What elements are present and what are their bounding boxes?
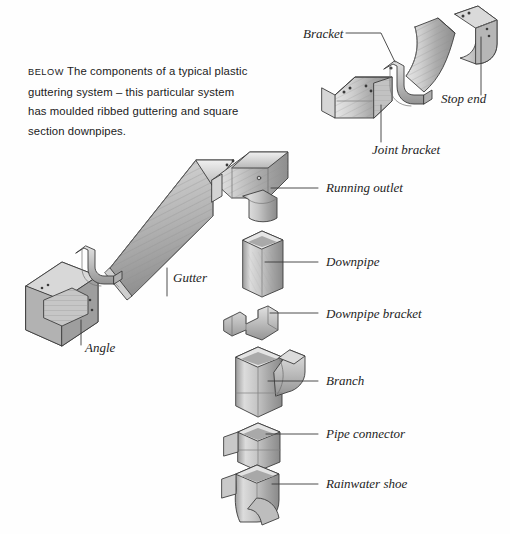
downpipe-bracket-part [224, 306, 278, 340]
label-bracket: Bracket [303, 27, 343, 40]
branch-part [236, 347, 305, 417]
label-downpipe-bracket: Downpipe bracket [326, 307, 422, 320]
label-rainwater-shoe: Rainwater shoe [326, 477, 407, 490]
figure-caption: BELOW The components of a typical plasti… [28, 62, 252, 141]
label-running-outlet: Running outlet [326, 181, 403, 194]
label-angle: Angle [85, 341, 115, 354]
caption-kicker: BELOW [28, 67, 64, 77]
stop-end-part [455, 6, 497, 64]
pipe-connector-part [224, 423, 280, 471]
figure-page: BELOW The components of a typical plasti… [0, 0, 510, 534]
label-branch: Branch [326, 374, 364, 387]
label-stop-end: Stop end [441, 92, 486, 105]
joint-bracket-part [322, 77, 392, 118]
label-pipe-connector: Pipe connector [326, 427, 405, 440]
label-gutter: Gutter [173, 271, 207, 284]
angle-part [26, 262, 98, 346]
downpipe-part [243, 231, 283, 297]
label-joint-bracket: Joint bracket [372, 143, 440, 156]
label-downpipe: Downpipe [326, 255, 379, 268]
rainwater-shoe-part [222, 465, 279, 525]
gutter-curve-part [406, 18, 455, 92]
